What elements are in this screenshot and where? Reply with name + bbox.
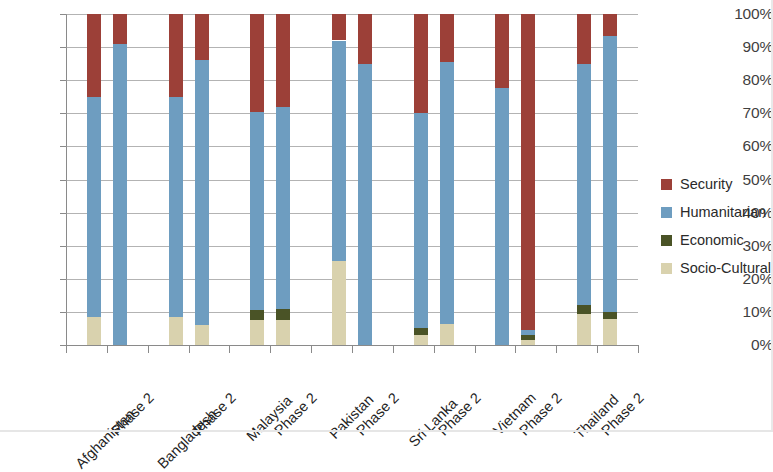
bar-segment-socio-cultural[interactable] xyxy=(440,324,454,346)
x-axis-tick-mark xyxy=(311,346,312,353)
bar-segment-socio-cultural[interactable] xyxy=(414,335,428,345)
bar-segment-socio-cultural[interactable] xyxy=(276,320,290,345)
bar-segment-security[interactable] xyxy=(250,14,264,112)
y-axis-tick-label: 0% xyxy=(717,336,773,354)
bar-segment-socio-cultural[interactable] xyxy=(195,325,209,345)
bar-segment-socio-cultural[interactable] xyxy=(577,314,591,345)
bar-segment-humanitarian[interactable] xyxy=(414,113,428,328)
bar-segment-humanitarian[interactable] xyxy=(87,97,101,317)
bar-segment-security[interactable] xyxy=(87,14,101,97)
bar-phase-2-13[interactable] xyxy=(603,14,617,345)
bar-segment-economic[interactable] xyxy=(276,309,290,321)
x-axis-label-1: Phase 2 xyxy=(145,352,194,401)
bar-segment-economic[interactable] xyxy=(603,312,617,319)
x-axis-tick-mark xyxy=(107,346,108,353)
x-axis-tick-mark xyxy=(515,346,516,353)
x-axis-tick-mark xyxy=(270,346,271,353)
bar-segment-economic[interactable] xyxy=(521,335,535,340)
bar-segment-socio-cultural[interactable] xyxy=(169,317,183,345)
x-axis-label-3: Phase 2 xyxy=(227,352,276,401)
bar-segment-economic[interactable] xyxy=(577,305,591,313)
bar-segment-socio-cultural[interactable] xyxy=(87,317,101,345)
gridline xyxy=(66,80,638,81)
bar-vietnam-10[interactable] xyxy=(495,14,509,345)
legend-swatch-socio-cultural xyxy=(661,263,672,274)
gridline xyxy=(66,180,638,181)
bar-phase-2-5[interactable] xyxy=(276,14,290,345)
bar-phase-2-1[interactable] xyxy=(113,14,127,345)
bar-segment-humanitarian[interactable] xyxy=(113,44,127,345)
plot-area xyxy=(66,14,638,345)
y-axis-tick-label: 80% xyxy=(717,71,773,89)
bar-bangladesh-2[interactable] xyxy=(169,14,183,345)
bar-segment-economic[interactable] xyxy=(414,328,428,335)
bar-segment-socio-cultural[interactable] xyxy=(332,261,346,345)
legend-item-socio-cultural[interactable]: Socio-Cultural xyxy=(661,254,773,282)
bar-segment-security[interactable] xyxy=(276,14,290,107)
bar-segment-security[interactable] xyxy=(603,14,617,36)
legend-label: Socio-Cultural xyxy=(680,260,771,276)
bar-phase-2-7[interactable] xyxy=(358,14,372,345)
bar-segment-humanitarian[interactable] xyxy=(440,62,454,323)
x-axis-tick-mark xyxy=(475,346,476,353)
x-axis-tick-mark xyxy=(148,346,149,353)
y-axis-tick-label: 90% xyxy=(717,38,773,56)
bar-segment-humanitarian[interactable] xyxy=(332,41,346,261)
bar-segment-security[interactable] xyxy=(414,14,428,113)
legend-swatch-humanitarian xyxy=(661,207,672,218)
bar-segment-security[interactable] xyxy=(440,14,454,62)
bar-segment-socio-cultural[interactable] xyxy=(250,320,264,345)
legend-label: Security xyxy=(680,176,732,192)
y-axis-tick-label: 100% xyxy=(717,5,773,23)
bar-segment-security[interactable] xyxy=(169,14,183,97)
bar-segment-humanitarian[interactable] xyxy=(603,36,617,312)
gridline xyxy=(66,47,638,48)
bar-segment-humanitarian[interactable] xyxy=(495,88,509,345)
bar-segment-humanitarian[interactable] xyxy=(250,112,264,311)
bar-phase-2-11[interactable] xyxy=(521,14,535,345)
legend-item-security[interactable]: Security xyxy=(661,170,773,198)
legend-item-economic[interactable]: Economic xyxy=(661,226,773,254)
gridline xyxy=(66,213,638,214)
y-axis-tick-label: 60% xyxy=(717,137,773,155)
bar-segment-security[interactable] xyxy=(332,14,346,40)
page-edge-bottom xyxy=(0,430,773,432)
bar-segment-security[interactable] xyxy=(495,14,509,88)
bar-malaysia-4[interactable] xyxy=(250,14,264,345)
gridline xyxy=(66,279,638,280)
legend-item-humanitarian[interactable]: Humanitarian xyxy=(661,198,773,226)
y-axis-tick-label: 10% xyxy=(717,303,773,321)
bar-segment-socio-cultural[interactable] xyxy=(603,319,617,345)
bar-segment-humanitarian[interactable] xyxy=(577,64,591,306)
bar-thailand-12[interactable] xyxy=(577,14,591,345)
gridline xyxy=(66,312,638,313)
x-axis-tick-mark xyxy=(597,346,598,353)
bar-segment-security[interactable] xyxy=(113,14,127,44)
x-axis-tick-mark xyxy=(66,346,67,353)
x-axis-tick-mark xyxy=(638,346,639,353)
x-axis-tick-mark xyxy=(556,346,557,353)
bar-segment-security[interactable] xyxy=(358,14,372,64)
gridline xyxy=(66,246,638,247)
bar-segment-humanitarian[interactable] xyxy=(521,330,535,335)
bar-segment-economic[interactable] xyxy=(250,310,264,320)
bar-phase-2-3[interactable] xyxy=(195,14,209,345)
bar-phase-2-9[interactable] xyxy=(440,14,454,345)
bar-segment-security[interactable] xyxy=(521,14,535,330)
bar-segment-humanitarian[interactable] xyxy=(358,64,372,345)
bar-pakistan-6[interactable] xyxy=(332,14,346,345)
legend-swatch-security xyxy=(661,179,672,190)
x-axis-tick-mark xyxy=(393,346,394,353)
bar-segment-humanitarian[interactable] xyxy=(276,107,290,309)
x-axis-tick-mark xyxy=(189,346,190,353)
gridline xyxy=(66,14,638,15)
x-axis-tick-mark xyxy=(352,346,353,353)
bar-segment-security[interactable] xyxy=(577,14,591,64)
y-axis-tick-label: 70% xyxy=(717,104,773,122)
bar-segment-humanitarian[interactable] xyxy=(195,60,209,325)
bar-sri-lanka-8[interactable] xyxy=(414,14,428,345)
bar-segment-humanitarian[interactable] xyxy=(169,97,183,317)
bar-segment-security[interactable] xyxy=(195,14,209,60)
bar-afghanistan-0[interactable] xyxy=(87,14,101,345)
